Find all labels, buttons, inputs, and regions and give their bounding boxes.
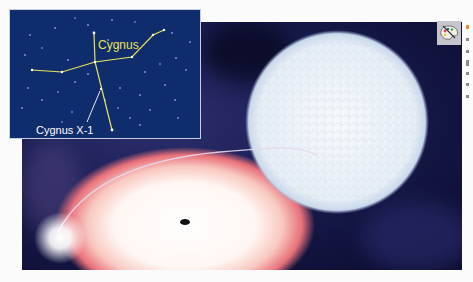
cygnus-x1-label: Cygnus X-1 — [36, 124, 93, 136]
constellation-label: Cygnus — [98, 38, 139, 52]
palette-button[interactable] — [437, 21, 461, 45]
clipped-text-mark — [466, 38, 469, 41]
clipped-text-mark — [466, 25, 469, 29]
clipped-text-mark — [466, 95, 469, 98]
cygnus-x1-pointer — [87, 91, 100, 122]
black-hole — [180, 219, 190, 225]
palette-icon — [439, 24, 459, 42]
clipped-text-mark — [466, 72, 469, 75]
clipped-text-mark — [466, 50, 469, 53]
clipped-text-mark — [466, 60, 469, 66]
hot-spot-glow — [34, 212, 86, 264]
supergiant-star — [245, 30, 429, 214]
constellation-inset: Cygnus Cygnus X-1 — [10, 10, 200, 138]
clipped-text-mark — [466, 83, 469, 86]
